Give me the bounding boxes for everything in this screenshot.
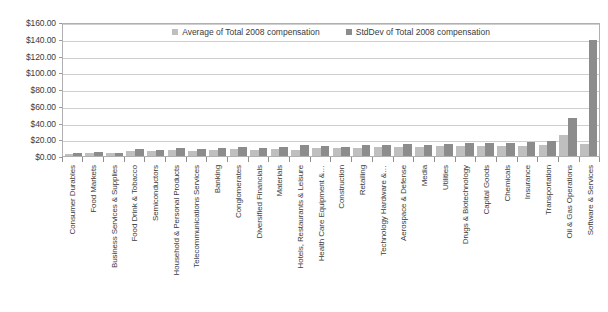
bar-series-1 — [250, 150, 259, 156]
bar-series-2 — [135, 149, 144, 156]
bar-series-1 — [85, 153, 94, 156]
x-axis-tick-label: Diversified Financials — [254, 165, 263, 238]
bar-group — [145, 24, 166, 156]
x-axis-label-cell: Technology Hardware &… — [372, 163, 393, 311]
bar-series-2 — [362, 145, 371, 156]
bar-group — [63, 24, 84, 156]
x-axis-tick-label: Consumer Durables — [68, 165, 77, 234]
x-axis-label-cell: Aerospace & Defense — [393, 163, 414, 311]
x-axis-label-cell: Conglomerates — [228, 163, 249, 311]
x-axis-label-cell: Capital Goods — [476, 163, 497, 311]
bar-series-1 — [394, 147, 403, 156]
bar-group — [125, 24, 146, 156]
x-axis-label-cell: Food Markets — [83, 163, 104, 311]
bar-series-2 — [485, 143, 494, 156]
bar-group — [372, 24, 393, 156]
bar-series-2 — [506, 143, 515, 156]
x-axis-tick-label: Software & Services — [585, 165, 594, 235]
bar-series-1 — [518, 146, 527, 156]
bar-series-2 — [444, 144, 453, 156]
bar-series-2 — [341, 147, 350, 156]
x-axis-tick-label: Business Services & Supplies — [109, 165, 118, 268]
bar-series-1 — [497, 146, 506, 156]
y-axis-tick-label: $140.00 — [26, 35, 56, 45]
x-axis-tick-label: Insurance — [523, 165, 532, 199]
bar-series-2 — [403, 144, 412, 156]
bar-series-1 — [168, 150, 177, 156]
x-axis-tick-label: Construction — [337, 165, 346, 209]
bars-layer — [63, 24, 599, 156]
x-axis-tick-label: Capital Goods — [482, 165, 491, 214]
bar-series-1 — [65, 154, 74, 157]
y-axis-tick-label: $40.00 — [31, 119, 56, 129]
x-axis-label-cell: Business Services & Supplies — [103, 163, 124, 311]
bar-series-2 — [94, 152, 103, 156]
bar-series-2 — [589, 40, 598, 156]
bar-series-1 — [580, 144, 589, 156]
bar-series-1 — [353, 148, 362, 156]
bar-series-2 — [547, 141, 556, 156]
x-axis-label-cell: Food Drink & Tobacco — [124, 163, 145, 311]
bar-series-1 — [415, 147, 424, 156]
bar-series-1 — [188, 151, 197, 156]
x-axis-label-cell: Telecommunications Services — [186, 163, 207, 311]
x-axis-tick-label: Household & Personal Products — [171, 165, 180, 276]
bar-series-2 — [115, 153, 124, 156]
bar-group — [475, 24, 496, 156]
bar-series-2 — [238, 147, 247, 156]
bar-group — [578, 24, 599, 156]
bar-group — [207, 24, 228, 156]
bar-group — [331, 24, 352, 156]
x-axis-label-cell: Retailing — [352, 163, 373, 311]
x-axis-label-cell: Transportation — [538, 163, 559, 311]
x-axis-tick-label: Food Drink & Tobacco — [130, 165, 139, 242]
x-axis-tick-label: Materials — [275, 165, 284, 197]
x-axis-tick-label: Hotels, Restaurants & Leisure — [295, 165, 304, 268]
bar-series-1 — [291, 150, 300, 156]
x-axis-label-cell: Banking — [207, 163, 228, 311]
bar-group — [352, 24, 373, 156]
y-axis-tick-label: $120.00 — [26, 52, 56, 62]
bar-group — [228, 24, 249, 156]
bar-group — [310, 24, 331, 156]
bar-series-2 — [300, 145, 309, 156]
bar-group — [455, 24, 476, 156]
bar-series-1 — [456, 146, 465, 156]
x-axis-tick-label: Retailing — [357, 165, 366, 195]
bar-series-1 — [126, 151, 135, 156]
x-axis-label-cell: Utilities — [434, 163, 455, 311]
x-axis-tick-label: Drugs & Biotechnology — [461, 165, 470, 244]
x-axis-label-cell: Health Care Equipment &… — [310, 163, 331, 311]
y-axis-tick-label: $60.00 — [31, 102, 56, 112]
x-axis-label-cell: Materials — [269, 163, 290, 311]
x-axis-tick-label: Telecommunications Services — [192, 165, 201, 268]
x-axis-tick-label: Aerospace & Defense — [399, 165, 408, 241]
bar-group — [558, 24, 579, 156]
x-axis-tick-label: Technology Hardware &… — [378, 165, 387, 256]
bar-group — [413, 24, 434, 156]
x-axis-label-cell: Oil & Gas Operations — [559, 163, 580, 311]
x-axis-tick-label: Conglomerates — [233, 165, 242, 218]
bar-group — [496, 24, 517, 156]
bar-group — [248, 24, 269, 156]
x-axis-label-cell: Software & Services — [579, 163, 600, 311]
x-axis-tick-label: Utilities — [440, 165, 449, 190]
bar-series-2 — [382, 145, 391, 156]
bar-series-1 — [106, 153, 115, 156]
x-axis-tick-label: Media — [420, 165, 429, 186]
x-axis-label-cell: Hotels, Restaurants & Leisure — [290, 163, 311, 311]
bar-group — [434, 24, 455, 156]
bar-series-2 — [568, 118, 577, 156]
y-axis-tick-label: $20.00 — [31, 135, 56, 145]
bar-series-2 — [197, 149, 206, 156]
bar-series-1 — [209, 150, 218, 156]
x-axis-tick-label: Chemicals — [502, 165, 511, 201]
x-axis-label-cell: Construction — [331, 163, 352, 311]
bar-series-1 — [230, 149, 239, 156]
x-axis-label-cell: Insurance — [517, 163, 538, 311]
x-axis-label-cell: Diversified Financials — [248, 163, 269, 311]
bar-series-1 — [312, 148, 321, 156]
bar-series-2 — [321, 146, 330, 156]
bar-series-1 — [147, 151, 156, 156]
x-axis-label-cell: Media — [414, 163, 435, 311]
